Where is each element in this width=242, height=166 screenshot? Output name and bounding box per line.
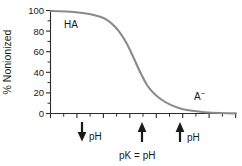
- y-tick-label-40: 40: [33, 67, 44, 78]
- ha-label: HA: [64, 19, 78, 30]
- x-axis-ticks: [51, 114, 236, 119]
- a-minus-superscript: −: [201, 89, 206, 98]
- pk-equals-ph-label: pK = pH: [119, 150, 155, 161]
- high-ph-label: pH: [187, 132, 200, 143]
- arrow-up-icon: [176, 122, 185, 132]
- titration-curve: [51, 11, 236, 113]
- arrow-up-icon: [138, 122, 147, 132]
- y-tick-label-20: 20: [33, 87, 44, 98]
- arrow-down-icon: [78, 132, 87, 142]
- y-tick-label-80: 80: [33, 26, 44, 37]
- titration-curve-figure: % Nonionized 100 80 60 40 20 0: [0, 0, 242, 166]
- high-ph-marker: pH: [176, 122, 200, 143]
- y-axis-title: % Nonionized: [1, 29, 13, 94]
- pk-marker: pK = pH: [119, 122, 155, 161]
- chart-svg: % Nonionized 100 80 60 40 20 0: [0, 0, 242, 166]
- axis-spines: [51, 11, 237, 114]
- low-ph-label: pH: [89, 131, 102, 142]
- y-tick-label-0: 0: [39, 108, 44, 119]
- low-ph-marker: pH: [78, 122, 102, 142]
- y-tick-label-60: 60: [33, 46, 44, 57]
- y-tick-label-100: 100: [28, 5, 44, 16]
- a-minus-label: A−: [194, 89, 206, 102]
